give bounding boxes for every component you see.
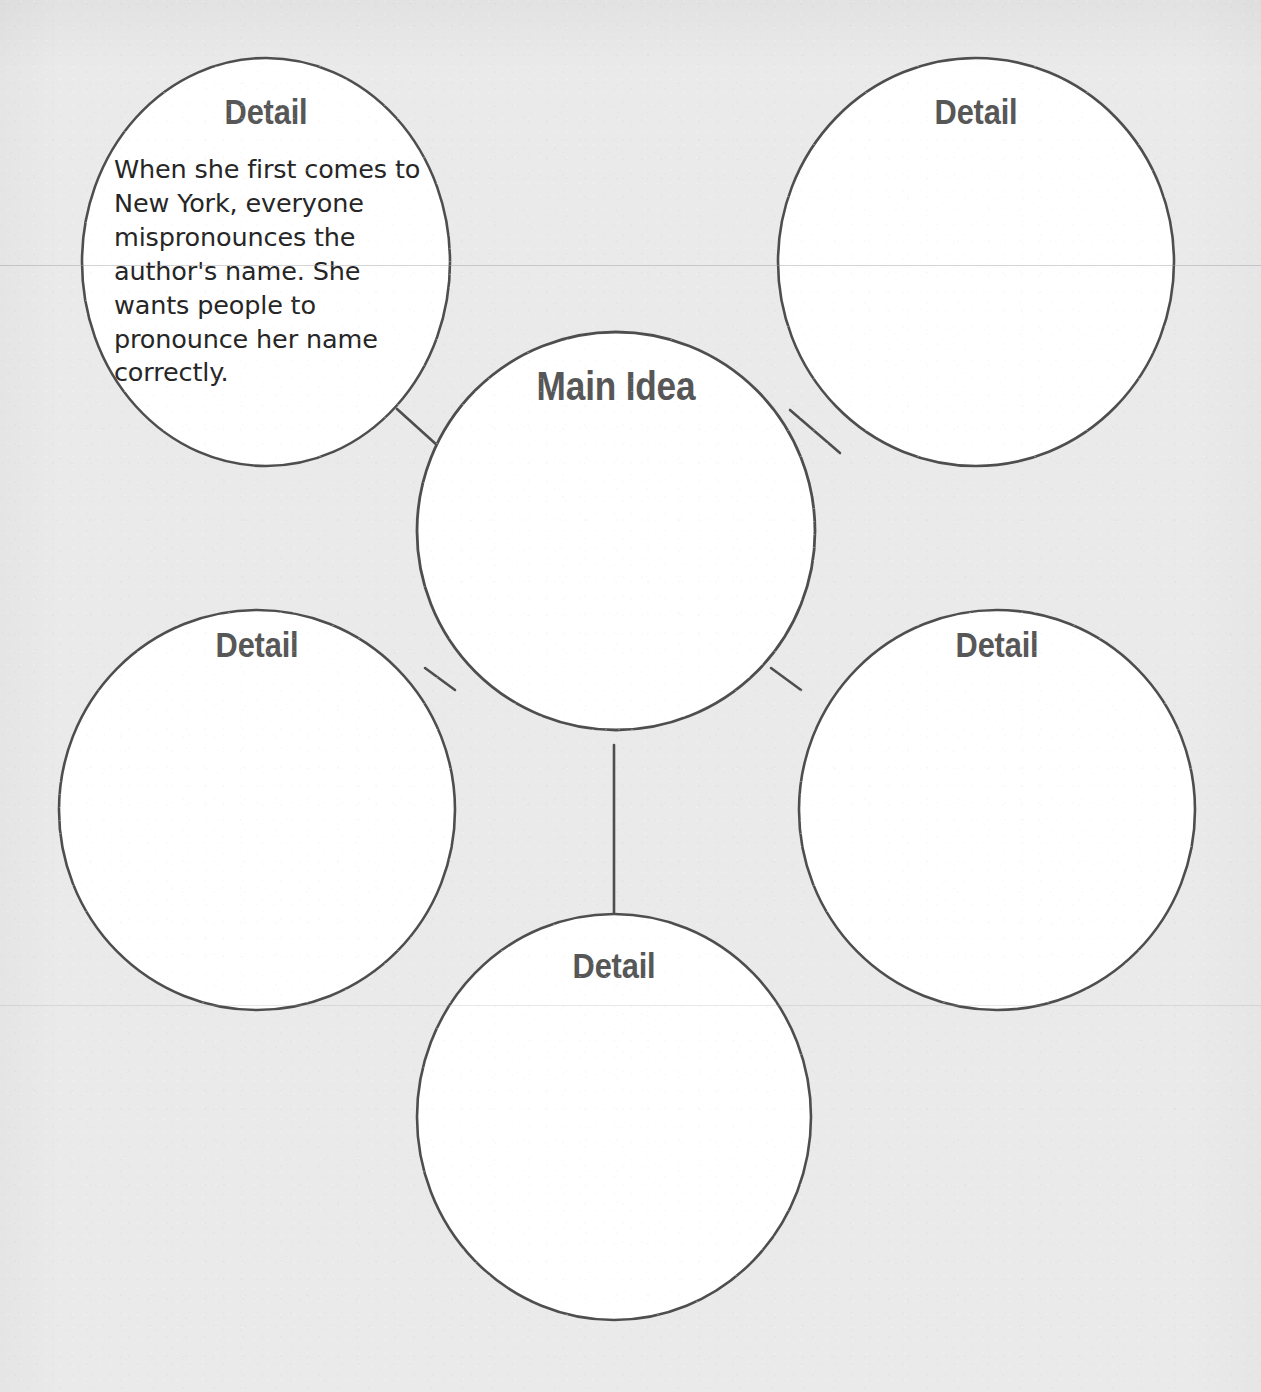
detail-label-top-right: Detail [818, 92, 1135, 132]
main-idea-label: Main Idea [458, 364, 775, 409]
connector-left [425, 668, 455, 690]
detail-label-bottom: Detail [456, 946, 773, 986]
detail-label-left: Detail [99, 625, 416, 665]
detail-label-top-left: Detail [108, 92, 425, 132]
detail-circle-left[interactable] [59, 610, 455, 1010]
detail-circle-right[interactable] [799, 610, 1195, 1010]
detail-label-right: Detail [839, 625, 1156, 665]
detail-text-top-left[interactable]: When she first comes to New York, everyo… [114, 153, 424, 390]
connector-right [771, 668, 801, 690]
worksheet-page: Detail Detail Detail Detail Detail Main … [0, 0, 1261, 1392]
